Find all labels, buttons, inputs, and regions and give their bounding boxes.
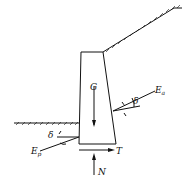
passive-pressure-label: Ep: [30, 146, 42, 158]
weight-arrowhead: [92, 120, 96, 127]
shear-force-label: T: [116, 146, 123, 156]
shear-arrowhead: [108, 148, 115, 152]
retaining-wall-diagram: G Ea δ δ Ep T N: [0, 0, 190, 181]
normal-arrowhead: [92, 153, 96, 160]
backfill-hatch: [106, 5, 180, 52]
passive-pressure-line: [40, 137, 79, 151]
diagram-svg: G Ea δ δ Ep T N: [0, 0, 190, 181]
active-delta-label: δ: [133, 96, 138, 106]
active-normal-ref-line: [113, 106, 140, 111]
retaining-wall: [79, 52, 116, 144]
active-pressure-label: Ea: [154, 85, 166, 96]
weight-label: G: [90, 82, 97, 92]
passive-delta-label: δ: [48, 130, 53, 140]
normal-force-label: N: [97, 167, 107, 177]
